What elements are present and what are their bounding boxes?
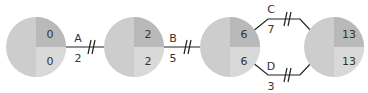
- edge-b-duration: 5: [170, 52, 177, 65]
- edge-b: B 5: [164, 32, 200, 65]
- node-3: 6 6: [200, 17, 260, 77]
- edge-c-line: [252, 19, 312, 32]
- edge-d: D 3: [252, 60, 312, 93]
- node-4-late-time: 13: [342, 55, 356, 68]
- node-1-early-time: 0: [47, 28, 54, 41]
- node-3-late-time: 6: [241, 55, 248, 68]
- edge-a-label: A: [74, 32, 82, 45]
- edge-b-label: B: [169, 32, 177, 45]
- node-4-early-time: 13: [342, 28, 356, 41]
- edge-d-line: [252, 62, 312, 75]
- edge-c-duration: 7: [268, 23, 275, 36]
- edge-d-label: D: [267, 60, 275, 73]
- node-4: 13 13: [304, 17, 364, 77]
- node-3-early-time: 6: [241, 28, 248, 41]
- network-diagram: A 2 B 5 C 7 D 3 0 0 2 2: [0, 0, 368, 93]
- node-2-late-time: 2: [145, 55, 152, 68]
- edge-d-duration: 3: [268, 80, 275, 93]
- node-1: 0 0: [6, 17, 66, 77]
- node-2-early-time: 2: [145, 28, 152, 41]
- edge-c: C 7: [252, 3, 312, 36]
- node-1-late-time: 0: [47, 55, 54, 68]
- edge-a: A 2: [66, 32, 104, 65]
- node-2: 2 2: [104, 17, 164, 77]
- edge-c-label: C: [267, 3, 275, 16]
- edge-a-duration: 2: [75, 52, 82, 65]
